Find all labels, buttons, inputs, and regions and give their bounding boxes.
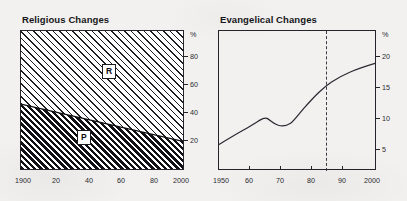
panel-evangelical-changes: Evangelical Changes % 20 15 10 5 1950 60…	[204, 0, 407, 201]
panel-religious-changes: Religious Changes R P % 80 60 40 20 1900	[0, 0, 204, 201]
x-tick-label: 60	[245, 176, 253, 185]
y-tick-mark	[184, 140, 188, 141]
x-tick-mark	[249, 166, 250, 170]
figure-root: Religious Changes R P % 80 60 40 20 1900	[0, 0, 407, 201]
y-tick-label: 5	[382, 145, 386, 154]
y-tick-mark	[376, 87, 380, 88]
y-tick-label: 20	[382, 52, 390, 61]
x-tick-label: 2000	[173, 176, 189, 185]
y-tick-mark	[376, 149, 380, 150]
y-tick-mark	[184, 56, 188, 57]
region-label-R: R	[102, 64, 116, 79]
x-tick-label: 90	[338, 176, 346, 185]
y-tick-label: 15	[382, 83, 390, 92]
line-series-evangelical	[219, 31, 375, 169]
plot-area-evangelical	[218, 30, 376, 170]
x-tick-label: 60	[117, 176, 125, 185]
y-tick-label: 40	[190, 108, 198, 117]
y-tick-mark	[184, 84, 188, 85]
page-title-religious: Religious Changes	[22, 14, 109, 25]
y-tick-label: 10	[382, 114, 390, 123]
x-tick-label: 2000	[364, 176, 380, 185]
x-tick-label: 1900	[15, 176, 31, 185]
x-tick-label: 20	[52, 176, 60, 185]
x-tick-label: 1950	[213, 176, 229, 185]
x-tick-label: 40	[85, 176, 93, 185]
region-boundary-line	[21, 31, 183, 169]
y-tick-mark	[376, 118, 380, 119]
x-tick-label: 80	[307, 176, 315, 185]
plot-area-religious: R P	[20, 30, 184, 170]
x-tick-label: 80	[150, 176, 158, 185]
y-unit-label-religious: %	[190, 30, 196, 39]
x-tick-mark	[342, 166, 343, 170]
y-unit-label-evangelical: %	[382, 30, 388, 39]
y-tick-label: 20	[190, 136, 198, 145]
y-tick-mark	[376, 56, 380, 57]
y-tick-label: 80	[190, 52, 198, 61]
y-tick-label: 60	[190, 80, 198, 89]
region-label-P: P	[77, 130, 91, 145]
x-tick-mark	[311, 166, 312, 170]
x-tick-label: 70	[276, 176, 284, 185]
y-tick-mark	[184, 112, 188, 113]
page-title-evangelical: Evangelical Changes	[220, 14, 317, 25]
x-tick-mark	[280, 166, 281, 170]
